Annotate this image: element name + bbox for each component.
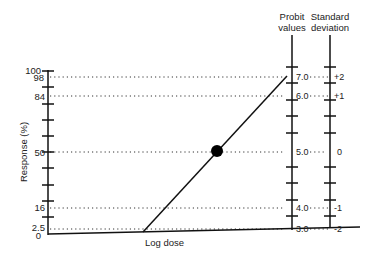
probit-title-line1: Probit (280, 11, 305, 22)
sd-title-line1: Standard (311, 11, 350, 22)
tick-label-98: 98 (33, 72, 44, 83)
probit-axis (286, 35, 298, 230)
x-axis-label: Log dose (145, 237, 184, 248)
svg-text:4.0: 4.0 (296, 203, 309, 213)
svg-text:7.0: 7.0 (296, 72, 309, 82)
svg-text:3.0: 3.0 (296, 224, 309, 234)
probit-tick-labels: 7.0 6.0 5.0 4.0 3.0 (296, 72, 309, 234)
svg-text:6.0: 6.0 (296, 91, 309, 101)
svg-text:-1: -1 (334, 203, 342, 213)
log-dose-axis (48, 227, 360, 234)
sd-axis (324, 35, 336, 228)
midpoint-marker (211, 145, 223, 157)
right-axis-titles: Probit values Standard deviation (278, 11, 349, 33)
probit-diagram: 100 98 84 50 16 2.5 0 Response (%) Log d… (0, 0, 365, 266)
tick-label-16: 16 (34, 202, 45, 213)
sd-tick-labels: +2 +1 0 -1 -2 (334, 72, 344, 234)
probit-title-line2: values (278, 22, 306, 33)
svg-text:5.0: 5.0 (296, 147, 309, 157)
svg-text:-2: -2 (334, 224, 342, 234)
svg-text:0: 0 (337, 147, 342, 157)
y-axis-label: Response (%) (18, 122, 29, 182)
tick-label-0: 0 (36, 230, 41, 241)
svg-text:+1: +1 (334, 91, 344, 101)
sd-title-line2: deviation (311, 22, 349, 33)
tick-label-84: 84 (34, 91, 45, 102)
tick-label-50: 50 (34, 147, 45, 158)
svg-text:+2: +2 (334, 72, 344, 82)
